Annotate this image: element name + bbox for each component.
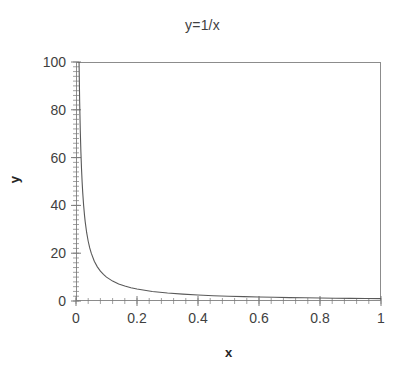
y-tick-label: 60 — [22, 151, 66, 165]
x-axis-title: x — [76, 345, 381, 360]
y-tick-label: 0 — [22, 294, 66, 308]
data-curve — [79, 62, 381, 299]
x-tick-label: 1 — [356, 311, 405, 325]
y-axis-minor-ticks — [73, 62, 79, 301]
y-tick-label: 80 — [22, 103, 66, 117]
x-tick-label: 0.6 — [234, 311, 284, 325]
x-tick-label: 0.2 — [112, 311, 162, 325]
x-tick-label: 0.8 — [295, 311, 345, 325]
y-axis-title: y — [7, 168, 22, 192]
x-axis-major-ticks — [76, 296, 381, 306]
y-tick-label: 40 — [22, 198, 66, 212]
x-axis-minor-ticks — [76, 298, 381, 304]
x-tick-label: 0 — [51, 311, 101, 325]
chart-figure: y=1/x 020406080100 00.20.40.60.81 x y — [0, 0, 405, 374]
x-tick-label: 0.4 — [173, 311, 223, 325]
y-tick-label: 20 — [22, 246, 66, 260]
y-tick-label: 100 — [22, 55, 66, 69]
